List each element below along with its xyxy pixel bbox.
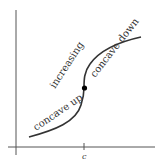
inflection-point — [82, 85, 87, 90]
label-concave-down: concave down — [88, 15, 141, 79]
concavity-diagram: c concave up increasing concave down — [0, 0, 158, 167]
label-increasing: increasing — [47, 39, 85, 90]
x-tick-label: c — [82, 152, 87, 161]
